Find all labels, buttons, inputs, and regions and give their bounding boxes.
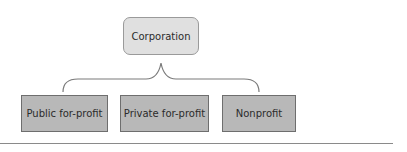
node-label: Private for-profit: [124, 108, 205, 119]
child-node-public-for-profit: Public for-profit: [21, 95, 108, 132]
node-label: Public for-profit: [26, 108, 102, 119]
node-label: Nonprofit: [236, 108, 283, 119]
curly-brace-connector: [63, 63, 259, 92]
child-node-nonprofit: Nonprofit: [222, 95, 296, 132]
child-node-private-for-profit: Private for-profit: [120, 95, 209, 132]
node-label: Corporation: [131, 31, 190, 42]
root-node-corporation: Corporation: [123, 17, 199, 55]
